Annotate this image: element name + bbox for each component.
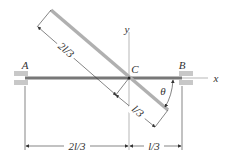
label-x: x	[213, 72, 219, 84]
ext-line-c	[115, 78, 129, 96]
dim-horizontal-right: l/3	[148, 140, 160, 152]
diagram-canvas: 2l/3 l/3 2l/3 l/3 A B C y x θ	[0, 0, 227, 160]
dim-inclined-upper-line	[38, 27, 116, 95]
label-b: B	[179, 59, 186, 71]
angle-arc	[165, 80, 173, 107]
ext-line-top	[37, 10, 51, 27]
label-a: A	[21, 59, 29, 71]
label-theta: θ	[160, 85, 166, 97]
label-y: y	[124, 23, 130, 35]
ext-line-bottom	[155, 110, 168, 127]
dim-horizontal-left: 2l/3	[68, 140, 86, 152]
label-c: C	[131, 63, 139, 75]
